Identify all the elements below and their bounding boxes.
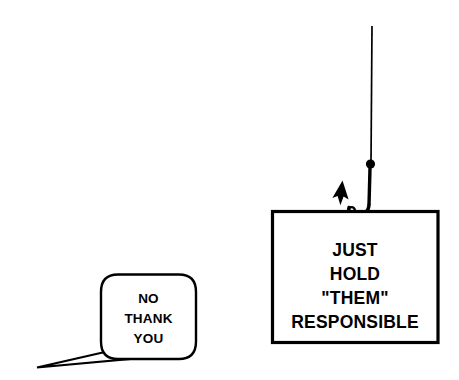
speech-bubble-line-3: YOU [134, 331, 164, 346]
fish-hook-group [332, 181, 369, 216]
placard-group[interactable]: JUST HOLD "THEM" RESPONSIBLE [273, 212, 439, 343]
placard-line-3: "THEM" [321, 288, 388, 308]
placard-line-2: HOLD [330, 264, 380, 284]
fishing-line-group [366, 26, 375, 205]
cartoon-canvas: JUST HOLD "THEM" RESPONSIBLE NO THANK YO… [0, 0, 459, 380]
hook-barb [332, 181, 348, 206]
placard-line-1: JUST [332, 240, 378, 260]
speech-bubble-line-1: NO [138, 291, 159, 306]
hook-shank [369, 168, 370, 205]
speech-bubble-group[interactable]: NO THANK YOU [37, 275, 196, 368]
fishing-line [371, 26, 372, 163]
placard-line-4: RESPONSIBLE [291, 312, 419, 332]
line-bead [366, 159, 375, 168]
cartoon-illustration: JUST HOLD "THEM" RESPONSIBLE NO THANK YO… [0, 0, 459, 380]
speech-bubble-line-2: THANK [124, 311, 172, 326]
